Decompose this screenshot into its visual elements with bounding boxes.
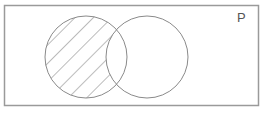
venn-diagram [0,0,265,114]
universe-label: P [237,10,246,25]
universe-frame [5,6,259,106]
